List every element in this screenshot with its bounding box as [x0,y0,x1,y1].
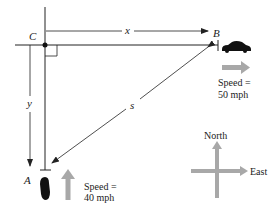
car-a-direction-arrow-icon [61,169,75,200]
x-distance-label: x [124,24,130,36]
car-a-speed-line1: Speed = [84,181,117,192]
point-c-label: C [29,30,37,42]
car-a-icon [40,177,50,200]
related-rates-diagram: C x B Speed = 50 mph y A s Speed = 40 mp… [0,0,276,206]
point-c-dot [43,43,48,48]
car-b-speed-line1: Speed = [218,77,251,88]
car-b-direction-arrow-icon [222,61,250,74]
s-distance-line-upper [140,47,208,99]
car-a-speed-line2: 40 mph [84,192,114,203]
car-b-speed-line2: 50 mph [218,89,248,100]
car-b-icon [222,41,251,53]
compass-east-label: East [250,166,267,177]
s-distance-line-lower [52,109,126,163]
compass-north-label: North [204,130,227,141]
compass-icon [191,141,248,198]
point-b-label: B [213,27,220,39]
point-a-label: A [23,174,31,186]
y-distance-label: y [26,97,32,109]
s-distance-label: s [130,99,134,111]
